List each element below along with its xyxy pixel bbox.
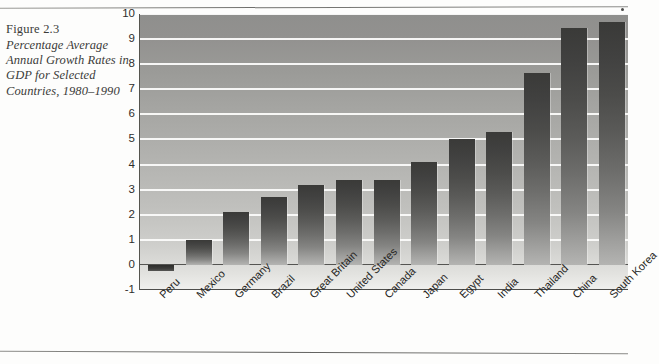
- y-axis-tick-label: 5: [105, 132, 135, 144]
- bar: [148, 265, 174, 271]
- x-axis-labels: PeruMexicoGermanyBrazilGreat BritainUnit…: [140, 292, 628, 364]
- y-axis-tick-label: 9: [105, 32, 135, 44]
- y-axis-tick-label: 0: [105, 258, 135, 270]
- y-axis-tick-label: 2: [105, 208, 135, 220]
- y-axis-tick-label: 8: [105, 57, 135, 69]
- bar: [486, 132, 512, 265]
- bar-series: [140, 14, 628, 290]
- bar: [449, 139, 475, 264]
- y-axis-tick-label: 1: [105, 233, 135, 245]
- bar: [561, 28, 587, 265]
- bar: [261, 197, 287, 265]
- bar: [411, 162, 437, 265]
- y-axis-line: [139, 14, 140, 290]
- bar: [223, 212, 249, 265]
- y-axis-tick-label: 3: [105, 183, 135, 195]
- bar: [298, 185, 324, 265]
- bar-chart: [140, 14, 628, 290]
- y-axis-tick-label: -1: [105, 283, 135, 295]
- bar: [524, 73, 550, 265]
- y-axis-tick-label: 7: [105, 82, 135, 94]
- bar: [599, 22, 625, 265]
- bar: [186, 240, 212, 265]
- y-axis-tick-label: 10: [105, 7, 135, 19]
- y-axis-tick-label: 4: [105, 158, 135, 170]
- y-axis-tick-label: 6: [105, 107, 135, 119]
- plot-area: [140, 14, 628, 290]
